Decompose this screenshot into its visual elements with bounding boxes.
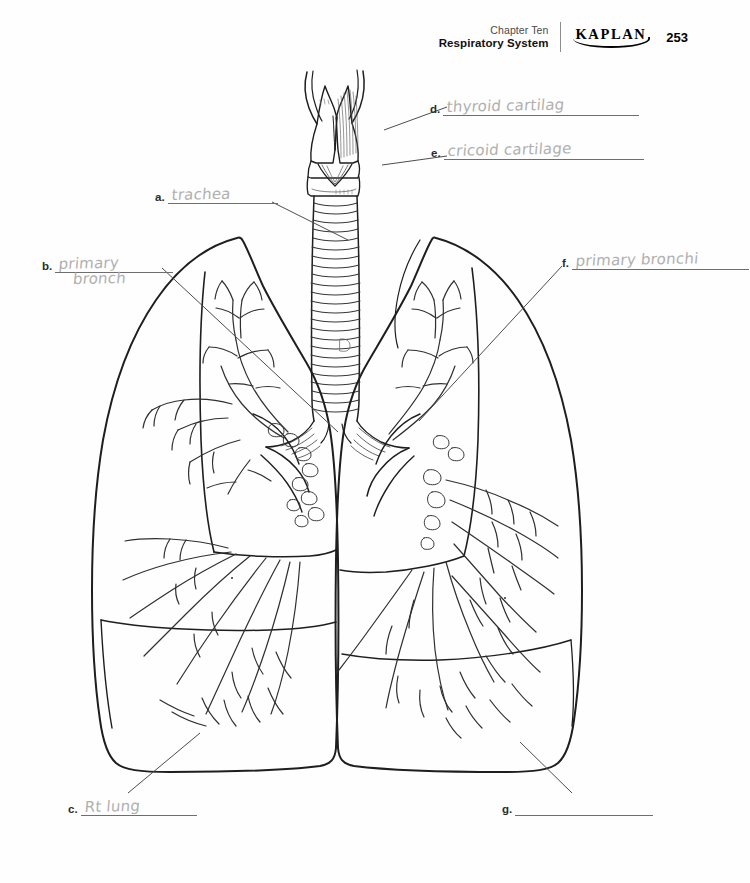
label-f-slot[interactable]: primary bronchi bbox=[572, 252, 749, 270]
label-b-slot[interactable]: primary bronch bbox=[55, 255, 173, 273]
label-d-letter: d. bbox=[430, 103, 440, 116]
label-g-slot[interactable] bbox=[515, 798, 653, 816]
leader-b bbox=[162, 268, 338, 432]
label-b[interactable]: b. primary bronch bbox=[42, 255, 173, 273]
label-e[interactable]: e. cricoid cartilage bbox=[431, 142, 644, 160]
label-d-answer: thyroid cartilag bbox=[443, 97, 567, 116]
label-c-answer: Rt lung bbox=[81, 799, 143, 816]
label-d[interactable]: d. thyroid cartilag bbox=[430, 98, 639, 116]
label-g[interactable]: g. bbox=[502, 798, 653, 816]
label-f-answer: primary bronchi bbox=[572, 251, 701, 270]
label-b-answer-line2: bronch bbox=[69, 271, 129, 288]
label-e-letter: e. bbox=[431, 147, 441, 160]
label-a[interactable]: a. trachea bbox=[155, 186, 278, 204]
label-b-letter: b. bbox=[42, 260, 52, 273]
label-c-slot[interactable]: Rt lung bbox=[81, 798, 197, 816]
label-g-answer bbox=[515, 815, 520, 816]
label-c[interactable]: c. Rt lung bbox=[68, 798, 197, 816]
label-a-letter: a. bbox=[155, 191, 165, 204]
label-f-letter: f. bbox=[562, 257, 569, 270]
label-d-slot[interactable]: thyroid cartilag bbox=[443, 98, 639, 116]
label-a-slot[interactable]: trachea bbox=[168, 186, 278, 204]
leader-g bbox=[520, 742, 572, 793]
label-e-slot[interactable]: cricoid cartilage bbox=[444, 142, 644, 160]
label-g-letter: g. bbox=[502, 803, 512, 816]
leader-lines bbox=[0, 0, 750, 883]
label-c-letter: c. bbox=[68, 803, 78, 816]
label-e-answer: cricoid cartilage bbox=[444, 141, 574, 160]
leader-c bbox=[128, 733, 200, 793]
leader-f bbox=[419, 266, 562, 421]
leader-a bbox=[272, 202, 348, 240]
label-f[interactable]: f. primary bronchi bbox=[562, 252, 749, 270]
label-a-answer: trachea bbox=[168, 187, 233, 204]
worksheet-page: Chapter Ten Respiratory System KAPLAN 25… bbox=[0, 0, 750, 883]
